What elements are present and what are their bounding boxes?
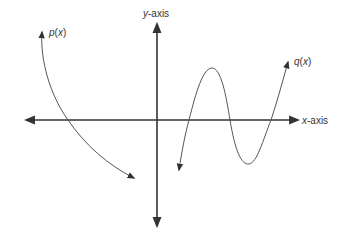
p-of-x-label: p(x) xyxy=(48,27,66,38)
q-of-x-label: q(x) xyxy=(294,56,311,67)
x-axis-label: x-axis xyxy=(301,115,328,126)
y-axis-label: y-axis xyxy=(142,8,169,19)
q-of-x-curve xyxy=(179,62,288,170)
p-of-x-curve xyxy=(42,32,134,178)
coordinate-plane-diagram: y-axis x-axis p(x) q(x) xyxy=(0,0,347,247)
